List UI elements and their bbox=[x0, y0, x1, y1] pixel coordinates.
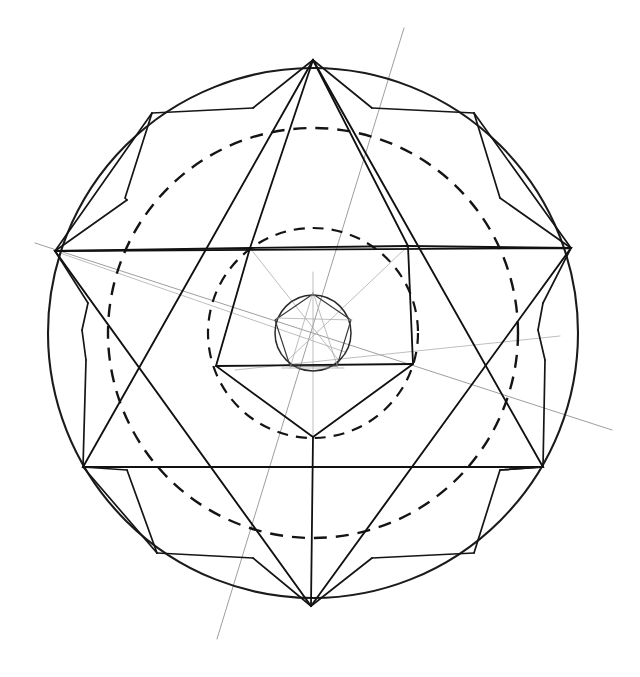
connector-upper-right-a bbox=[313, 60, 372, 108]
notch-left-upper bbox=[82, 303, 88, 330]
notch-right-upper bbox=[538, 303, 543, 330]
radial-bottom-to-inner bbox=[311, 437, 313, 606]
connector-upper-left-b bbox=[253, 60, 313, 108]
inner-star-stroke-right bbox=[313, 246, 413, 437]
connector-lower-left-b bbox=[83, 467, 157, 553]
geometric-construction-figure bbox=[0, 0, 640, 677]
drawing-canvas: Hand-drawn geometric construction Concen… bbox=[0, 0, 640, 677]
construction-spoke-a bbox=[250, 248, 340, 362]
connector-upper-left-a bbox=[55, 113, 152, 251]
connector-right-b bbox=[543, 360, 545, 467]
connector-inner-upper-right bbox=[500, 198, 571, 248]
construction-line-steep-diagonal bbox=[217, 28, 404, 639]
notch-upper-right bbox=[474, 113, 500, 198]
inner-star-chord-top bbox=[250, 246, 408, 248]
inner-star-stroke-left bbox=[216, 248, 313, 437]
connector-left-a bbox=[83, 360, 86, 467]
construction-lines-group bbox=[35, 28, 612, 639]
notch-lower-left bbox=[127, 470, 157, 553]
radial-right-to-inner bbox=[408, 246, 571, 248]
radial-top-to-inner-right bbox=[313, 60, 408, 246]
centre-cross-a bbox=[276, 318, 352, 320]
construction-spoke-b bbox=[288, 246, 408, 360]
connector-inner-upper-left bbox=[55, 200, 127, 251]
notch-lower-right bbox=[474, 470, 500, 553]
notch-left-lower bbox=[82, 330, 86, 360]
notch-right-lower bbox=[538, 330, 545, 360]
connector-right-a bbox=[543, 248, 571, 303]
notch-upper-left bbox=[125, 113, 152, 200]
construction-line-shallow-diagonal bbox=[35, 243, 612, 430]
centre-cross-d bbox=[313, 292, 338, 368]
construction-chord-left bbox=[60, 253, 345, 352]
